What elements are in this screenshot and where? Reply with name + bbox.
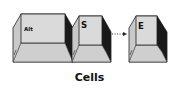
e-key-label: E (138, 21, 144, 31)
s-key-label: S (81, 20, 87, 30)
s-key: S (72, 16, 111, 62)
alt-key: Alt (13, 14, 73, 62)
diagram-caption: Cells (0, 71, 179, 84)
e-key: E (129, 16, 167, 62)
alt-key-label: Alt (24, 26, 33, 32)
dotted-arrow-icon (112, 32, 127, 36)
